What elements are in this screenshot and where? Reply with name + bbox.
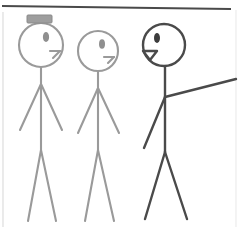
head-circle: [78, 31, 118, 71]
eye-shape: [99, 39, 105, 49]
drawing-canvas: [0, 0, 238, 227]
eye-shape: [154, 33, 160, 43]
hat-shape: [27, 15, 52, 23]
head-circle: [19, 23, 63, 67]
eye-shape: [43, 32, 49, 42]
stick-figures-illustration: [0, 0, 238, 227]
